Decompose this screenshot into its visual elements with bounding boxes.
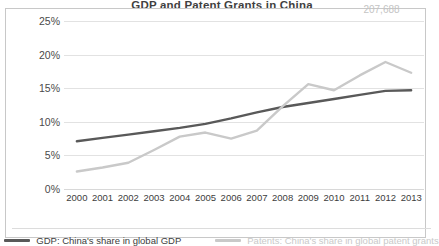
y-axis-tick-label: 10% — [16, 116, 60, 128]
chart-legend: GDP: China's share in global GDPPatents:… — [11, 229, 432, 246]
y-axis-tick-label: 0% — [16, 183, 60, 195]
x-axis-tick-label: 2009 — [295, 192, 321, 208]
x-axis-tick-label: 2012 — [373, 192, 399, 208]
x-axis-labels: 2000200120022003200420052006200720082009… — [64, 192, 424, 208]
y-axis-labels: 0%5%10%15%20%25% — [16, 21, 60, 189]
y-axis-tick-label: 15% — [16, 82, 60, 94]
series-lines — [64, 21, 424, 189]
x-axis-tick-label: 2011 — [347, 192, 373, 208]
legend-item[interactable]: Patents: China's share in global patent … — [215, 235, 438, 246]
chart-container: GDP and Patent Grants in China 0%5%10%15… — [5, 8, 426, 238]
y-axis-tick-label: 5% — [16, 149, 60, 161]
x-axis-tick-label: 2010 — [321, 192, 347, 208]
data-point-label: 207,688 — [363, 4, 399, 15]
x-axis-tick-label: 2006 — [218, 192, 244, 208]
legend-swatch-icon — [4, 239, 30, 242]
x-axis-tick-label: 2008 — [270, 192, 296, 208]
series-line — [77, 62, 411, 172]
y-axis-tick-label: 20% — [16, 49, 60, 61]
x-axis-tick-label: 2000 — [64, 192, 90, 208]
y-axis-tick-label: 25% — [16, 15, 60, 27]
x-axis-tick-label: 2004 — [167, 192, 193, 208]
legend-label: GDP: China's share in global GDP — [36, 235, 181, 246]
x-axis-tick-label: 2007 — [244, 192, 270, 208]
legend-swatch-icon — [215, 239, 241, 242]
x-axis-tick-label: 2002 — [115, 192, 141, 208]
x-axis-tick-label: 2001 — [90, 192, 116, 208]
x-axis-tick-label: 2003 — [141, 192, 167, 208]
legend-item[interactable]: GDP: China's share in global GDP — [4, 235, 181, 246]
x-axis-tick-label: 2005 — [193, 192, 219, 208]
x-axis-tick-label: 2013 — [398, 192, 424, 208]
legend-label: Patents: China's share in global patent … — [247, 235, 438, 246]
gridline — [64, 189, 424, 190]
plot-area — [64, 21, 424, 189]
